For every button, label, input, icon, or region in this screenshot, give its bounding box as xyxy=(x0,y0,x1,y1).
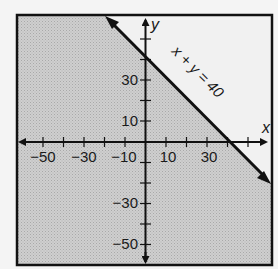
y-axis-label: y xyxy=(150,16,160,33)
x-tick-label-30: 30 xyxy=(201,148,218,165)
y-tick-label-neg30: −30 xyxy=(113,194,138,211)
x-tick-label-neg10: −10 xyxy=(111,148,136,165)
x-tick-label-neg50: −50 xyxy=(30,148,55,165)
y-tick-label-30: 30 xyxy=(121,71,138,88)
inequality-graph: −50 −30 −10 10 30 30 10 −30 −50 x y x + … xyxy=(0,0,278,269)
y-tick-label-neg50: −50 xyxy=(113,235,138,252)
x-tick-label-neg30: −30 xyxy=(71,148,96,165)
x-tick-label-10: 10 xyxy=(160,148,177,165)
y-tick-label-10: 10 xyxy=(121,112,138,129)
x-axis-label: x xyxy=(261,119,271,136)
